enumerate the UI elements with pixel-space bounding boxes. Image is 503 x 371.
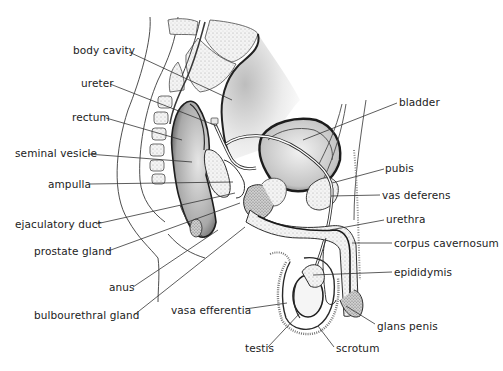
label-prostate-gland: prostate gland: [34, 245, 112, 257]
label-anus: anus: [109, 281, 135, 293]
anatomy-diagram: body cavity ureter rectum seminal vesicl…: [0, 0, 503, 371]
label-pubis: pubis: [385, 162, 414, 174]
label-testis: testis: [245, 342, 274, 354]
label-seminal-vesicle: seminal vesicle: [15, 147, 97, 159]
label-vasa-efferentia: vasa efferentia: [171, 304, 251, 316]
leader-line-urethra: [330, 220, 384, 230]
label-urethra: urethra: [386, 213, 425, 225]
label-ureter: ureter: [81, 77, 114, 89]
label-ejaculatory-duct: ejaculatory duct: [15, 218, 102, 230]
label-ampulla: ampulla: [48, 178, 91, 190]
leader-line-scrotum: [318, 326, 334, 347]
leader-line-prostate-gland: [108, 203, 240, 251]
label-bulbourethral-gland: bulbourethral gland: [34, 309, 140, 321]
leader-line-bulbourethral-gland: [134, 227, 245, 315]
leader-line-pubis: [332, 169, 384, 183]
label-scrotum: scrotum: [336, 342, 379, 354]
label-vas-deferens: vas deferens: [382, 189, 451, 201]
label-corpus-cavernosum: corpus cavernosum: [394, 237, 499, 249]
body-outline: [117, 17, 178, 302]
label-body-cavity: body cavity: [73, 44, 135, 56]
leader-line-vas-deferens: [331, 195, 380, 196]
label-rectum: rectum: [72, 111, 110, 123]
label-epididymis: epididymis: [394, 266, 452, 278]
label-bladder: bladder: [399, 96, 440, 108]
label-glans-penis: glans penis: [377, 320, 438, 332]
